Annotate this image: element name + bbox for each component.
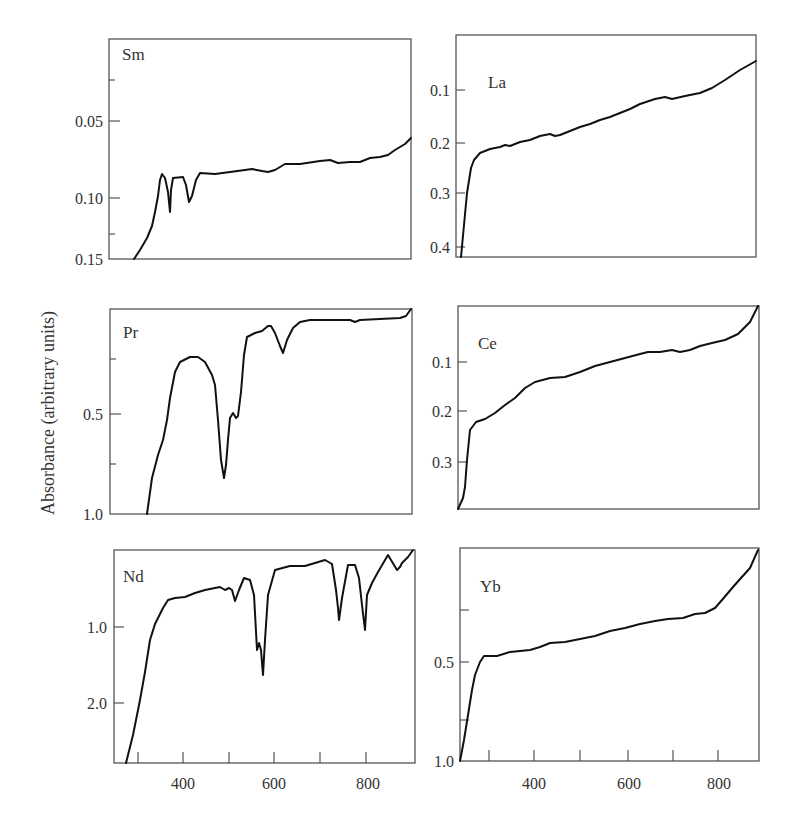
yb-ytick-0: 0.5 (434, 654, 454, 671)
ce-ytick-2: 0.3 (432, 454, 452, 471)
la-ytick-1: 0.2 (430, 135, 450, 152)
ce-ytick-1: 0.2 (432, 403, 452, 420)
panel-label-sm: Sm (122, 45, 145, 64)
nd-spectrum-curve (126, 550, 413, 763)
yb-xtick-800: 800 (707, 775, 731, 792)
sm-ytick-1: 0.10 (75, 190, 103, 207)
panel-label-ce: Ce (478, 334, 497, 353)
nd-xtick-600: 600 (262, 775, 286, 792)
yb-ytick-1: 1.0 (434, 753, 454, 770)
nd-ytick-1: 2.0 (87, 695, 107, 712)
ce-spectrum-curve (458, 306, 758, 509)
pr-ytick-0: 0.5 (83, 406, 103, 423)
ce-ytick-0: 0.1 (432, 354, 452, 371)
sm-ytick-2: 0.15 (75, 251, 103, 268)
pr-spectrum-curve (147, 309, 411, 514)
la-ytick-0: 0.1 (430, 82, 450, 99)
panel-label-pr: Pr (123, 323, 138, 342)
sm-ytick-0: 0.05 (75, 113, 103, 130)
yb-xtick-400: 400 (522, 775, 546, 792)
panel-label-yb: Yb (480, 577, 501, 596)
pr-ytick-1: 1.0 (83, 506, 103, 523)
panel-label-la: La (488, 73, 506, 92)
la-ytick-2: 0.3 (430, 185, 450, 202)
nd-xtick-800: 800 (356, 775, 380, 792)
panel-label-nd: Nd (123, 567, 144, 586)
sm-spectrum-curve (134, 138, 411, 259)
absorbance-figure: Sm La Pr Ce Nd Yb 0.05 0.10 0.15 0.1 0.2… (0, 0, 799, 834)
panel-pr-frame (110, 309, 412, 514)
nd-ytick-0: 1.0 (87, 619, 107, 636)
yb-xtick-600: 600 (617, 775, 641, 792)
yb-spectrum-curve (460, 550, 758, 761)
la-ytick-3: 0.4 (430, 239, 450, 256)
panel-sm-frame (109, 39, 411, 259)
nd-xtick-400: 400 (171, 775, 195, 792)
